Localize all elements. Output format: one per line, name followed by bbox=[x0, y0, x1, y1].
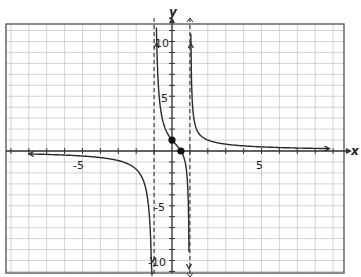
curve-branch-right bbox=[191, 34, 330, 149]
curve-arrow-down-icon bbox=[187, 264, 192, 269]
curve-branch-left bbox=[29, 154, 153, 275]
y-tick-label-5: 5 bbox=[161, 92, 168, 105]
y-tick-label-10: 10 bbox=[155, 37, 169, 50]
marked-point bbox=[168, 136, 175, 143]
y-tick-label-neg10: -10 bbox=[148, 256, 166, 269]
axes bbox=[6, 17, 352, 273]
y-axis-label: y bbox=[169, 5, 178, 19]
tick-labels: -5 5 10 5 -5 -10 bbox=[73, 37, 263, 269]
y-tick-label-neg5: -5 bbox=[154, 201, 165, 214]
x-axis-label: x bbox=[350, 144, 360, 158]
x-tick-label-5: 5 bbox=[256, 159, 263, 172]
marked-point bbox=[177, 147, 184, 154]
function-graph: -5 5 10 5 -5 -10 y x bbox=[0, 0, 361, 277]
x-tick-label-neg5: -5 bbox=[73, 159, 84, 172]
